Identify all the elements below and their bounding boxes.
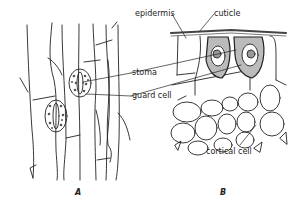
panel-b-cortical-cells — [171, 85, 287, 155]
panel-a-stomata — [45, 69, 91, 132]
panel-label-b: B — [220, 189, 226, 197]
panel-a-cells — [20, 22, 130, 180]
label-guard-cell: guard cell — [132, 92, 172, 100]
panel-b-guard-cells — [206, 37, 264, 78]
label-stoma: stoma — [132, 69, 157, 77]
label-cuticle: cuticle — [214, 10, 240, 18]
diagram-drawing — [0, 0, 296, 205]
diagram-canvas: epidermis cuticle stoma guard cell corti… — [0, 0, 296, 205]
label-epidermis: epidermis — [135, 10, 175, 18]
panel-label-a: A — [75, 189, 81, 197]
label-cortical-cell: cortical cell — [206, 148, 252, 156]
